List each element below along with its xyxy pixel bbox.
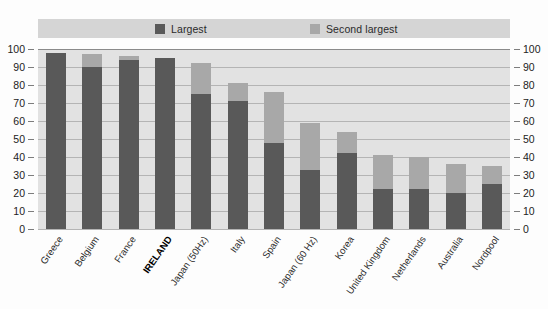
bar-segment-largest xyxy=(82,67,102,229)
y-tick-50: 50 xyxy=(0,133,34,145)
bar-slot xyxy=(474,49,510,229)
bar-slot xyxy=(111,49,147,229)
y-tick-10: 10 xyxy=(514,205,548,217)
y-tick-mark xyxy=(28,229,34,230)
market-share-bar-chart: Largest Second largest 10090807060504030… xyxy=(0,0,548,309)
bar-stack[interactable] xyxy=(446,164,466,229)
y-tick-20: 20 xyxy=(0,187,34,199)
bar-segment-second-largest xyxy=(228,83,248,101)
bar-stack[interactable] xyxy=(409,157,429,229)
y-tick-70: 70 xyxy=(514,97,548,109)
y-tick-0: 0 xyxy=(0,223,34,235)
x-axis-categories: GreeceBelgiumFranceIRELANDJapan (50Hz)It… xyxy=(38,232,510,307)
legend-label-largest: Largest xyxy=(171,23,207,35)
y-tick-mark xyxy=(514,67,520,68)
bar-segment-largest xyxy=(119,60,139,229)
y-tick-mark xyxy=(514,157,520,158)
bar-stack[interactable] xyxy=(119,56,139,229)
bar-segment-second-largest xyxy=(191,63,211,94)
bar-segment-largest xyxy=(337,153,357,229)
bars-layer xyxy=(38,49,510,229)
y-tick-mark xyxy=(514,229,520,230)
bar-segment-largest xyxy=(373,189,393,229)
y-tick-50: 50 xyxy=(514,133,548,145)
y-tick-60: 60 xyxy=(514,115,548,127)
bar-segment-largest xyxy=(446,193,466,229)
bar-slot xyxy=(292,49,328,229)
bar-segment-second-largest xyxy=(337,132,357,154)
bar-stack[interactable] xyxy=(46,53,66,229)
bar-stack[interactable] xyxy=(228,83,248,229)
bar-stack[interactable] xyxy=(373,155,393,229)
y-tick-100: 100 xyxy=(514,43,548,55)
category-slot: Belgium xyxy=(74,232,110,307)
y-tick-mark xyxy=(28,85,34,86)
bar-slot xyxy=(256,49,292,229)
legend-swatch-second-largest xyxy=(310,24,320,34)
bar-slot xyxy=(329,49,365,229)
category-label-korea: Korea xyxy=(332,234,356,261)
y-tick-mark xyxy=(28,103,34,104)
bar-stack[interactable] xyxy=(300,123,320,229)
bar-stack[interactable] xyxy=(191,63,211,229)
y-tick-80: 80 xyxy=(0,79,34,91)
y-tick-10: 10 xyxy=(0,205,34,217)
legend-entry-largest: Largest xyxy=(155,19,207,38)
y-tick-90: 90 xyxy=(0,61,34,73)
category-label-nordpool: Nordpool xyxy=(470,234,501,272)
bar-segment-largest xyxy=(228,101,248,229)
legend-entry-second-largest: Second largest xyxy=(310,19,397,38)
chart-legend: Largest Second largest xyxy=(38,19,510,38)
y-tick-mark xyxy=(514,85,520,86)
category-label-france: France xyxy=(112,234,138,265)
y-axis-right: 1009080706050403020100 xyxy=(514,49,548,229)
y-tick-90: 90 xyxy=(514,61,548,73)
bar-stack[interactable] xyxy=(482,166,502,229)
y-tick-40: 40 xyxy=(0,151,34,163)
bar-segment-largest xyxy=(482,184,502,229)
y-tick-mark xyxy=(28,67,34,68)
bar-slot xyxy=(437,49,473,229)
y-tick-mark xyxy=(514,211,520,212)
bar-segment-second-largest xyxy=(482,166,502,184)
y-tick-30: 30 xyxy=(514,169,548,181)
bar-stack[interactable] xyxy=(264,92,284,229)
y-tick-100: 100 xyxy=(0,43,34,55)
plot-area xyxy=(38,49,510,230)
y-tick-40: 40 xyxy=(514,151,548,163)
bar-slot xyxy=(183,49,219,229)
bar-slot xyxy=(147,49,183,229)
y-tick-mark xyxy=(514,103,520,104)
y-tick-mark xyxy=(514,49,520,50)
bar-slot xyxy=(220,49,256,229)
y-tick-mark xyxy=(514,139,520,140)
bar-segment-largest xyxy=(46,53,66,229)
bar-segment-second-largest xyxy=(373,155,393,189)
category-label-italy: Italy xyxy=(228,234,247,255)
y-tick-30: 30 xyxy=(0,169,34,181)
category-label-greece: Greece xyxy=(38,234,65,266)
bar-segment-largest xyxy=(191,94,211,229)
y-tick-70: 70 xyxy=(0,97,34,109)
y-tick-20: 20 xyxy=(514,187,548,199)
bar-segment-largest xyxy=(300,170,320,229)
bar-segment-second-largest xyxy=(446,164,466,193)
y-tick-mark xyxy=(514,121,520,122)
category-label-spain: Spain xyxy=(260,234,283,260)
category-slot: Japan (50Hz) xyxy=(183,232,219,307)
category-slot: Italy xyxy=(220,232,256,307)
bar-slot xyxy=(401,49,437,229)
category-slot: Australia xyxy=(437,232,473,307)
category-slot: Netherlands xyxy=(401,232,437,307)
bar-segment-largest xyxy=(409,189,429,229)
bar-stack[interactable] xyxy=(82,54,102,229)
bar-stack[interactable] xyxy=(155,58,175,229)
y-tick-80: 80 xyxy=(514,79,548,91)
y-axis-left: 1009080706050403020100 xyxy=(0,49,34,229)
bar-slot xyxy=(74,49,110,229)
bar-slot xyxy=(365,49,401,229)
bar-segment-largest xyxy=(155,58,175,229)
y-tick-mark xyxy=(28,157,34,158)
legend-swatch-largest xyxy=(155,24,165,34)
bar-stack[interactable] xyxy=(337,132,357,229)
